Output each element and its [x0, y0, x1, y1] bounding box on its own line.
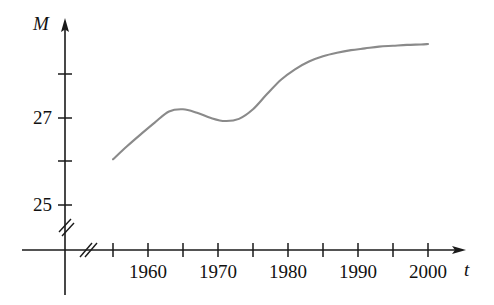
x-tick-label-1960: 1960 [118, 262, 178, 281]
chart-canvas [0, 0, 494, 305]
y-axis-break-icon [59, 219, 74, 236]
y-tick-label-25: 25 [8, 195, 52, 214]
y-tick-label-27: 27 [8, 108, 52, 127]
x-tick-label-1980: 1980 [258, 262, 318, 281]
chart-figure: M t 27 25 1960 1970 1980 1990 2000 [0, 0, 494, 305]
x-axis-label: t [464, 260, 469, 279]
x-tick-label-1990: 1990 [328, 262, 388, 281]
x-tick-label-2000: 2000 [398, 262, 458, 281]
y-axis-label: M [33, 14, 49, 33]
x-tick-label-1970: 1970 [188, 262, 248, 281]
data-curve-series-0 [113, 44, 428, 159]
